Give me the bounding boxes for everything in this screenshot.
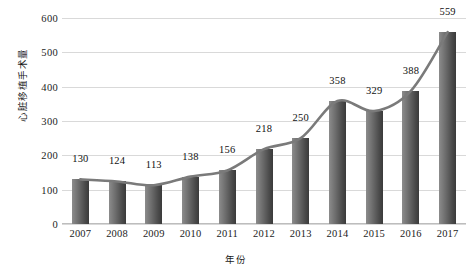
bar — [72, 179, 89, 224]
bar — [145, 185, 162, 224]
y-axis-tick-label: 200 — [16, 150, 58, 161]
bar-value-label: 113 — [146, 159, 162, 170]
bar-value-label: 388 — [403, 65, 419, 76]
bar-value-label: 156 — [219, 144, 235, 155]
y-axis-tick-labels: 0100200300400500600 — [2, 0, 58, 278]
bar-value-label: 130 — [72, 153, 88, 164]
y-axis-tick-label: 400 — [16, 81, 58, 92]
x-axis-tick-label: 2007 — [69, 228, 91, 239]
x-axis-tick-label: 2011 — [217, 228, 238, 239]
bar — [366, 111, 383, 224]
bar — [439, 32, 456, 224]
y-axis-tick-label: 300 — [16, 116, 58, 127]
gridline — [62, 224, 466, 225]
x-axis-tick-label: 2013 — [290, 228, 312, 239]
x-axis-tick-label: 2014 — [327, 228, 349, 239]
x-axis-tick-label: 2008 — [106, 228, 128, 239]
bar — [182, 177, 199, 224]
y-axis-tick-label: 600 — [16, 13, 58, 24]
y-axis-tick-label: 0 — [16, 219, 58, 230]
bar — [219, 170, 236, 224]
bar — [109, 181, 126, 224]
x-axis-tick-label: 2017 — [437, 228, 459, 239]
bar — [292, 138, 309, 224]
gridline — [62, 18, 466, 19]
x-axis-tick-labels: 2007200820092010201120122013201420152016… — [62, 228, 466, 248]
gridline — [62, 52, 466, 53]
bar-value-label: 124 — [109, 155, 125, 166]
bar-value-label: 329 — [366, 85, 382, 96]
x-axis-tick-label: 2012 — [253, 228, 275, 239]
x-axis-tick-label: 2009 — [143, 228, 165, 239]
y-axis-tick-label: 500 — [16, 47, 58, 58]
gridline — [62, 87, 466, 88]
bar-value-label: 559 — [439, 6, 455, 17]
x-axis-title: 年份 — [0, 252, 471, 266]
bar — [329, 101, 346, 224]
bar-value-label: 250 — [293, 112, 309, 123]
bar-value-label: 138 — [182, 151, 198, 162]
x-axis-tick-label: 2016 — [400, 228, 422, 239]
chart-container: 心脏移植手术量 0100200300400500600 130124113138… — [0, 0, 471, 278]
y-axis-tick-label: 100 — [16, 184, 58, 195]
bar-value-label: 358 — [329, 75, 345, 86]
bar — [402, 91, 419, 224]
bar-value-label: 218 — [256, 123, 272, 134]
x-axis-tick-label: 2015 — [363, 228, 385, 239]
x-axis-tick-label: 2010 — [180, 228, 202, 239]
plot-area: 130124113138156218250358329388559 — [62, 18, 466, 224]
bar — [256, 149, 273, 224]
